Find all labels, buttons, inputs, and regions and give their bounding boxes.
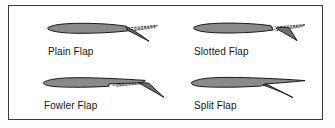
panel-split-flap: Split Flap <box>181 70 331 122</box>
fowler-flap-airfoil-body <box>43 78 145 88</box>
panel-plain-flap-label: Plain Flap <box>33 46 198 57</box>
slotted-flap-airfoil-body <box>194 23 273 33</box>
split-flap-deflected-panel <box>263 84 293 97</box>
panel-fowler-flap-label: Fowler Flap <box>33 100 194 111</box>
panel-slotted-flap: Slotted Flap <box>181 16 331 68</box>
split-flap-illustration <box>181 70 331 102</box>
split-flap-airfoil-body <box>191 77 305 87</box>
slotted-flap-illustration <box>181 16 331 48</box>
flap-types-figure: Plain Flap <box>0 0 335 128</box>
panel-split-flap-label: Split Flap <box>181 100 335 111</box>
panel-plain-flap: Plain Flap <box>33 16 183 68</box>
plain-flap-illustration <box>33 16 183 48</box>
plain-flap-airfoil-body <box>48 23 128 33</box>
fowler-flap-extended-element <box>139 83 164 98</box>
slotted-flap-deflected-element <box>276 27 297 40</box>
panel-slotted-flap-label: Slotted Flap <box>181 46 335 57</box>
figure-border: Plain Flap <box>8 5 323 120</box>
panel-fowler-flap: Fowler Flap <box>33 70 183 122</box>
fowler-flap-illustration <box>33 70 183 102</box>
